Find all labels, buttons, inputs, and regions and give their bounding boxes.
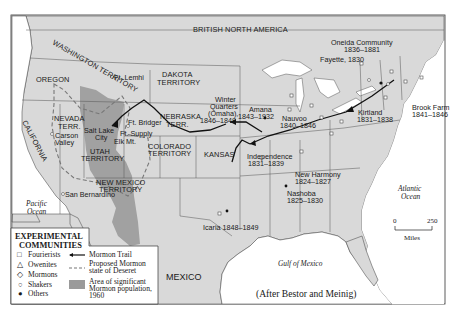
label-gulf-of-mexico: Gulf of Mexico <box>278 259 323 268</box>
label-ft-bridger: Ft. Bridger <box>128 118 162 127</box>
experimental-communities-map: BRITISH NORTH AMERICA WASHINGTON TERRITO… <box>0 0 455 313</box>
mormon-area-swatch-icon <box>69 280 85 289</box>
label-pacific-2b: Ocean <box>27 207 47 216</box>
legend-fourierists: Fourierists <box>28 250 61 259</box>
scale-min: 0 <box>393 217 397 225</box>
label-nebraska-2: TERR. <box>166 120 189 129</box>
label-nashoba-2: 1825–1830 <box>287 196 323 205</box>
label-independence-2: 1831–1839 <box>248 159 284 168</box>
legend-mormons: Mormons <box>28 270 58 279</box>
label-winter-quarters-4: 1846–1848 <box>200 116 236 125</box>
label-oregon: OREGON <box>36 75 69 84</box>
label-utah-2: TERRITORY <box>81 154 124 163</box>
scale-max: 250 <box>427 217 438 225</box>
legend-deseret-2: state of Deseret <box>89 266 137 275</box>
label-san-bernardino: San Bernardino <box>65 190 115 199</box>
label-salt-lake-2: City <box>95 133 108 142</box>
label-british-north-america: BRITISH NORTH AMERICA <box>193 25 288 34</box>
label-amana-2: 1843–1932 <box>238 112 274 121</box>
label-kansas: KANSAS <box>204 150 235 159</box>
legend-shakers: Shakers <box>28 280 52 289</box>
label-colorado-2: TERRITORY <box>148 149 191 158</box>
legend-title-1: EXPERIMENTAL <box>15 232 83 241</box>
others-icon: ● <box>18 289 23 298</box>
label-new-harmony-2: 1824–1827 <box>295 177 331 186</box>
label-ft-lemhi: Ft. Lemhi <box>114 73 144 82</box>
label-kirtland-2: 1831–1838 <box>357 115 393 124</box>
owenites-icon: △ <box>17 260 24 269</box>
legend-mormon-trail: Mormon Trail <box>89 250 132 259</box>
scale-unit: Miles <box>404 234 420 242</box>
fourierists-icon: □ <box>17 250 22 259</box>
mormons-icon: ◇ <box>17 270 24 279</box>
label-carson-2: Valley <box>55 138 74 147</box>
shakers-icon: ○ <box>18 280 23 289</box>
label-oneida-2: 1836–1881 <box>344 45 380 54</box>
label-elk-mt: Elk Mt. <box>114 137 136 146</box>
label-nauvoo-2: 1840–1846 <box>280 121 316 130</box>
legend-others: Others <box>28 289 48 298</box>
legend-area-3: 1960 <box>89 291 104 300</box>
legend-title-2: COMMUNITIES <box>19 241 82 250</box>
label-atlantic-2: Ocean <box>401 192 421 201</box>
label-dakota-2: TERRITORY <box>157 78 200 87</box>
label-nevada-2: TERR. <box>58 122 81 131</box>
map-credit: (After Bestor and Meinig) <box>256 288 356 300</box>
label-brook-farm-2: 1841–1846 <box>412 110 448 119</box>
label-mexico: MEXICO <box>166 272 202 282</box>
label-fayette: Fayette, 1830 <box>320 55 364 64</box>
legend-owenites: Owenites <box>28 260 57 269</box>
label-icaria: Icaria 1848–1849 <box>203 223 259 232</box>
